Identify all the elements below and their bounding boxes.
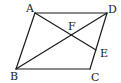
- segments: [16, 13, 107, 69]
- label-F: F: [68, 20, 76, 33]
- parallelogram-diagram: A D B C E F: [0, 0, 121, 83]
- segment-AE: [35, 13, 96, 50]
- label-A: A: [25, 2, 35, 15]
- segment-BD: [16, 13, 107, 69]
- segment-BA: [16, 13, 35, 69]
- label-B: B: [10, 70, 18, 83]
- label-E: E: [100, 47, 108, 60]
- label-D: D: [108, 3, 117, 16]
- point-labels: A D B C E F: [10, 2, 117, 83]
- label-C: C: [91, 71, 99, 83]
